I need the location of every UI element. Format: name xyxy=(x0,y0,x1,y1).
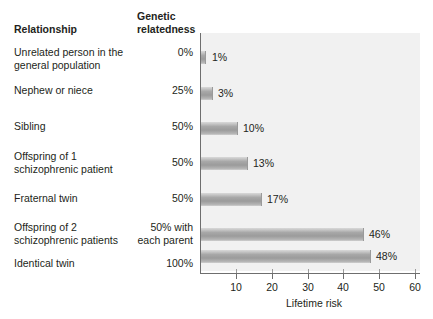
x-tick-top-20 xyxy=(272,269,273,273)
row-relatedness-nephew-or-niece: 25% xyxy=(93,84,193,97)
x-tick-label-40: 40 xyxy=(328,281,358,293)
x-axis-title: Lifetime risk xyxy=(286,297,342,309)
bar-identical-twin xyxy=(201,250,371,263)
row-relatedness-sibling: 50% xyxy=(93,120,193,133)
column-header-genetic-line1: Genetic xyxy=(137,10,193,23)
x-tick-50 xyxy=(379,274,380,279)
column-header-genetic-relatedness: Genetic relatedness xyxy=(137,10,193,35)
x-tick-label-60: 60 xyxy=(400,281,430,293)
x-tick-40 xyxy=(343,274,344,279)
x-tick-top-40 xyxy=(343,269,344,273)
x-tick-top-30 xyxy=(308,269,309,273)
x-tick-10 xyxy=(236,274,237,279)
bar-label-offspring-of-2: 46% xyxy=(369,228,390,240)
row-relatedness-identical-twin: 100% xyxy=(93,257,193,270)
x-tick-top-10 xyxy=(236,269,237,273)
column-header-genetic-line2: relatedness xyxy=(137,23,193,36)
x-tick-label-20: 20 xyxy=(257,281,287,293)
x-tick-top-50 xyxy=(379,269,380,273)
bar-sibling xyxy=(201,122,238,135)
x-tick-20 xyxy=(272,274,273,279)
bar-label-unrelated-person: 1% xyxy=(212,51,227,63)
row-relatedness-line1: 50% with xyxy=(93,221,193,234)
x-axis-line xyxy=(200,273,420,274)
x-tick-60 xyxy=(415,274,416,279)
bar-offspring-of-2 xyxy=(201,228,364,241)
row-relatedness-unrelated-person: 0% xyxy=(93,46,193,59)
row-label-line2: general population xyxy=(14,59,136,72)
x-tick-label-30: 30 xyxy=(293,281,323,293)
row-relatedness-fraternal-twin: 50% xyxy=(93,192,193,205)
schizophrenia-risk-chart: Relationship Genetic relatedness Unrelat… xyxy=(0,0,433,319)
row-relatedness-offspring-of-1: 50% xyxy=(93,156,193,169)
row-relatedness-line2: each parent xyxy=(93,234,193,247)
bar-unrelated-person xyxy=(201,51,206,64)
bar-label-nephew-or-niece: 3% xyxy=(218,87,233,99)
bar-label-identical-twin: 48% xyxy=(376,250,397,262)
x-tick-top-60 xyxy=(415,269,416,273)
relationship-table: Relationship Genetic relatedness Unrelat… xyxy=(0,0,200,319)
bar-nephew-or-niece xyxy=(201,87,213,100)
bar-offspring-of-1 xyxy=(201,157,248,170)
column-header-relationship: Relationship xyxy=(14,23,77,36)
x-tick-30 xyxy=(308,274,309,279)
x-tick-label-50: 50 xyxy=(364,281,394,293)
bar-label-sibling: 10% xyxy=(243,122,264,134)
bar-fraternal-twin xyxy=(201,193,262,206)
bar-label-offspring-of-1: 13% xyxy=(253,157,274,169)
x-tick-label-10: 10 xyxy=(221,281,251,293)
bar-label-fraternal-twin: 17% xyxy=(267,193,288,205)
row-relatedness-offspring-of-2: 50% with each parent xyxy=(93,221,193,246)
